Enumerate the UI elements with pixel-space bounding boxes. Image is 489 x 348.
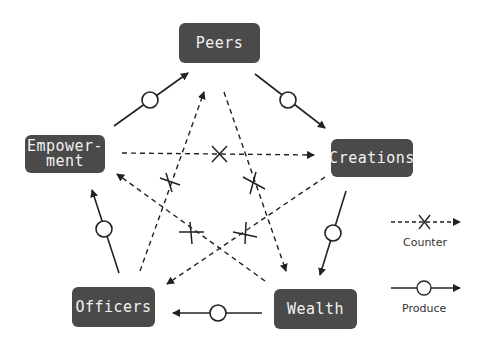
node-officers: Officers: [72, 287, 155, 327]
node-peers-label: Peers: [196, 36, 244, 51]
node-wealth-label: Wealth: [287, 302, 344, 317]
counter-x-icon: [160, 173, 180, 192]
legend: [391, 215, 460, 295]
node-wealth: Wealth: [274, 289, 357, 329]
produce-circle-icon: [210, 305, 226, 321]
legend-produce-circle-icon: [417, 281, 431, 295]
counter-edges: [117, 92, 325, 284]
node-creations: Creations: [331, 139, 413, 177]
node-peers: Peers: [179, 23, 260, 63]
counter-x-icon: [243, 172, 265, 194]
counter-x-icon: [179, 222, 204, 244]
produce-circle-icon: [142, 92, 158, 108]
produce-circle-icon: [325, 225, 341, 241]
node-empowerment-label: Empower- ment: [27, 139, 103, 169]
legend-produce-label: Produce: [402, 302, 446, 315]
node-officers-label: Officers: [75, 300, 151, 315]
counter-x-icon: [233, 222, 257, 244]
counter-marks: [160, 146, 265, 244]
produce-circle-icon: [96, 221, 112, 237]
edge-peers-wealth: [224, 92, 286, 271]
node-empowerment: Empower- ment: [25, 135, 105, 173]
legend-counter-label: Counter: [403, 236, 447, 249]
produce-edges: [92, 73, 346, 321]
node-creations-label: Creations: [329, 151, 415, 166]
produce-circle-icon: [280, 92, 296, 108]
